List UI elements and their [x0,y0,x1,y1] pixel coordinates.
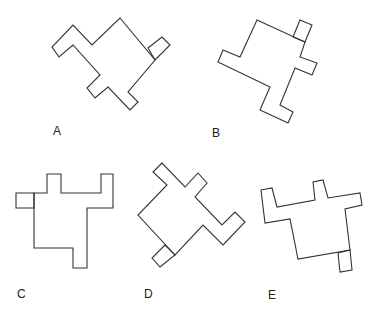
option-a[interactable]: A [52,18,170,138]
shapes-diagram: A B C D E [0,0,383,314]
option-b[interactable]: B [212,20,317,140]
label-e: E [268,288,276,302]
shape-a-outline [52,18,155,110]
label-d: D [144,287,153,301]
option-c[interactable]: C [16,174,113,301]
label-b: B [212,126,220,140]
label-c: C [17,287,26,301]
shape-e-tab [338,250,352,272]
label-a: A [53,124,61,138]
shape-d-tab [152,245,175,267]
shape-d-outline [138,163,245,255]
shape-b-outline [218,20,317,123]
shape-c-outline [34,174,113,268]
option-e[interactable]: E [261,180,362,302]
shape-b-tab [293,20,312,42]
shape-e-outline [261,180,362,259]
shape-a-tab [148,37,170,60]
option-d[interactable]: D [138,163,245,301]
shape-c-tab [16,193,34,208]
